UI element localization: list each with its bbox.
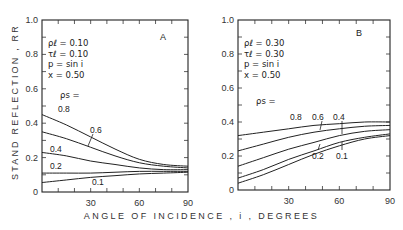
y-tick-label: 0.8 (25, 49, 38, 59)
y-tick-label: 0.4 (221, 117, 234, 127)
x-tick-label: 90 (385, 196, 395, 206)
x-axis-label: ANGLE OF INCIDENCE , i , DEGREES (0, 211, 403, 221)
curve-rho-s-08 (42, 115, 188, 167)
panel-b: 30609000.20.40.60.81.0Bρℓ = 0.30τℓ = 0.3… (221, 15, 395, 206)
parameter-text: ρℓ = 0.10 (48, 38, 88, 48)
parameter-text: τℓ = 0.30 (244, 49, 284, 59)
curve-rho-s-06 (42, 132, 188, 168)
y-tick-label: 1.0 (221, 15, 234, 25)
x-tick-label: 30 (86, 198, 96, 208)
curve-label: 0.6 (90, 125, 102, 135)
y-tick-label: 1.0 (25, 15, 38, 25)
curve-label: 0.2 (312, 151, 324, 161)
legend-title: ρs = (256, 96, 276, 106)
y-tick-label: 0.2 (25, 153, 38, 163)
curve-rho-s-04 (42, 152, 188, 169)
y-tick-label: 0.6 (221, 83, 234, 93)
legend-title: ρs = (60, 90, 80, 100)
panel-a: 30609000.20.40.60.81.0Aρℓ = 0.10τℓ = 0.1… (25, 15, 193, 208)
curve-label: 0.8 (58, 104, 70, 114)
x-tick-label: 90 (183, 198, 193, 208)
curve-label: 0.1 (92, 177, 104, 187)
y-tick-label: 0.8 (221, 49, 234, 59)
y-tick-label: 0 (229, 185, 234, 195)
parameter-text: ρℓ = 0.30 (244, 38, 284, 48)
parameter-text: x = 0.50 (244, 70, 280, 80)
y-tick-label: 0.2 (221, 151, 234, 161)
parameter-text: x = 0.50 (48, 70, 84, 80)
y-tick-label: 0.4 (25, 118, 38, 128)
curve-label: 0.4 (333, 112, 345, 122)
parameter-text: p = sin i (48, 59, 83, 69)
curve-label: 0.8 (290, 112, 302, 122)
panel-title: B (356, 28, 362, 38)
curve-rho-s-01 (42, 172, 188, 182)
chart-canvas: 30609000.20.40.60.81.0Aρℓ = 0.10τℓ = 0.1… (0, 0, 403, 230)
curve-label: 0.2 (50, 161, 62, 171)
y-tick-label: 0 (33, 187, 38, 197)
x-tick-label: 60 (334, 196, 344, 206)
curve-label: 0.1 (336, 151, 348, 161)
curve-label: 0.6 (312, 112, 324, 122)
curve-label: 0.4 (50, 144, 62, 154)
x-tick-label: 30 (284, 196, 294, 206)
y-axis-label: STAND REFLECTION , RR (10, 17, 20, 187)
y-tick-label: 0.6 (25, 84, 38, 94)
curve-rho-s-08 (238, 122, 390, 136)
x-tick-label: 60 (134, 198, 144, 208)
parameter-text: τℓ = 0.10 (48, 49, 88, 59)
panel-title: A (160, 32, 166, 42)
parameter-text: p = sin i (244, 59, 279, 69)
